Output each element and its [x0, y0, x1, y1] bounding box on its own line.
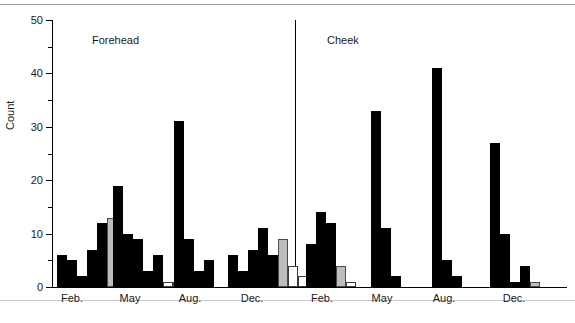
- bar: [326, 223, 336, 287]
- x-tick-label: Aug.: [433, 292, 456, 304]
- bar: [238, 271, 248, 287]
- bar: [153, 255, 163, 287]
- bar: [67, 260, 77, 287]
- bar: [133, 239, 143, 287]
- x-tick-label: Dec.: [241, 292, 264, 304]
- top-rule: [0, 4, 575, 5]
- bar: [432, 68, 442, 287]
- bar: [123, 234, 133, 287]
- bar: [500, 234, 510, 287]
- bar: [442, 260, 452, 287]
- bottom-rule: [0, 300, 575, 301]
- bar: [316, 212, 326, 287]
- y-tick-label: 40: [31, 67, 43, 79]
- bar: [268, 255, 278, 287]
- bar: [278, 239, 288, 287]
- chart-figure: Count 01020304050 Feb.MayAug.Dec.Feb.May…: [0, 0, 575, 323]
- bar: [381, 228, 391, 287]
- y-tick-label: 10: [31, 228, 43, 240]
- y-axis-label: Count: [4, 101, 16, 130]
- x-tick-label: Aug.: [179, 292, 202, 304]
- bar: [174, 121, 184, 287]
- x-tick-label: May: [372, 292, 393, 304]
- bar: [452, 276, 462, 287]
- bar: [77, 276, 87, 287]
- x-tick-label: May: [120, 292, 141, 304]
- bar: [228, 255, 238, 287]
- bar: [306, 244, 316, 287]
- bar: [194, 271, 204, 287]
- bar: [87, 250, 97, 287]
- x-tick-label: Dec.: [503, 292, 526, 304]
- bar: [204, 260, 214, 287]
- bar: [184, 239, 194, 287]
- bar: [391, 276, 401, 287]
- bars-layer: [52, 20, 567, 287]
- bar: [336, 266, 346, 287]
- bar: [520, 266, 530, 287]
- bar: [510, 282, 520, 287]
- bar: [113, 186, 123, 287]
- y-tick-label: 0: [37, 281, 43, 293]
- bar: [371, 111, 381, 287]
- bar: [258, 228, 268, 287]
- x-tick-label: Feb.: [61, 292, 83, 304]
- x-tick-label: Feb.: [311, 292, 333, 304]
- x-axis-line: [52, 287, 567, 288]
- y-tick-label: 50: [31, 14, 43, 26]
- bar: [163, 282, 173, 287]
- bar: [530, 282, 540, 287]
- bar: [143, 271, 153, 287]
- bar: [57, 255, 67, 287]
- bar: [97, 223, 107, 287]
- bar: [288, 266, 298, 287]
- y-tick-label: 20: [31, 174, 43, 186]
- bar: [490, 143, 500, 287]
- y-tick-label: 30: [31, 121, 43, 133]
- bar: [248, 250, 258, 287]
- bar: [346, 282, 356, 287]
